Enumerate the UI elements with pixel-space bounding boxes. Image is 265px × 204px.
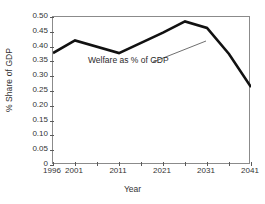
series-line-welfare-as-pct-of-gdp <box>53 17 251 165</box>
y-tick-label: 0.40 <box>16 42 48 50</box>
y-tick-label: 0.35 <box>16 56 48 64</box>
y-tick-mark <box>50 47 54 48</box>
x-tick-label: 1996 <box>43 167 61 175</box>
x-tick-mark <box>229 162 230 166</box>
x-axis-title: Year <box>0 184 265 194</box>
y-tick-mark <box>50 32 54 33</box>
y-tick-label: 0.10 <box>16 130 48 138</box>
y-tick-mark <box>50 135 54 136</box>
series-annotation-label: Welfare as % of GDP <box>88 55 169 65</box>
y-tick-label: 0.45 <box>16 27 48 35</box>
x-tick-label: 2021 <box>153 167 171 175</box>
y-tick-label: 0.05 <box>16 145 48 153</box>
x-tick-label: 2011 <box>109 167 126 175</box>
y-tick-label: 0.25 <box>16 86 48 94</box>
chart-figure: % Share of GDP 00.050.100.150.200.250.30… <box>0 0 265 204</box>
y-tick-label: 0.15 <box>16 116 48 124</box>
x-tick-mark <box>141 162 142 166</box>
x-tick-label: 2001 <box>65 167 83 175</box>
y-axis-title-text: % Share of GDP <box>4 48 14 112</box>
y-tick-label: 0.50 <box>16 12 48 20</box>
y-tick-mark <box>50 91 54 92</box>
y-tick-mark <box>50 121 54 122</box>
x-tick-label: 2041 <box>241 167 259 175</box>
x-axis-tick-labels: 199620012011202120312041 <box>0 167 265 179</box>
plot-area <box>52 16 250 164</box>
y-axis-tick-labels: 00.050.100.150.200.250.300.350.400.450.5… <box>16 12 48 164</box>
y-tick-mark <box>50 106 54 107</box>
y-tick-mark <box>50 150 54 151</box>
y-tick-mark <box>50 76 54 77</box>
y-tick-label: 0.30 <box>16 71 48 79</box>
y-tick-mark <box>50 17 54 18</box>
y-tick-label: 0.20 <box>16 101 48 109</box>
x-tick-mark <box>185 162 186 166</box>
y-tick-mark <box>50 61 54 62</box>
x-tick-mark <box>97 162 98 166</box>
x-tick-label: 2031 <box>197 167 215 175</box>
